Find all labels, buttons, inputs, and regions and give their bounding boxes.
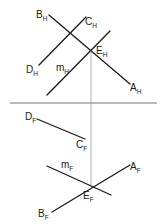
projection-diagram: BH CH DH EH mH AH DF CF mF AF EF BF bbox=[0, 0, 161, 224]
label-e-f: EF bbox=[83, 190, 94, 203]
label-c-h: CH bbox=[85, 16, 97, 29]
label-m-h: mH bbox=[56, 62, 69, 75]
line-m-frontal bbox=[47, 166, 111, 195]
label-b-f: BF bbox=[38, 208, 49, 221]
label-a-h: AH bbox=[130, 82, 142, 95]
label-b-h: BH bbox=[36, 9, 48, 22]
diagram-svg: BH CH DH EH mH AH DF CF mF AF EF BF bbox=[0, 0, 161, 224]
line-cd-frontal bbox=[37, 119, 85, 139]
label-m-f: mF bbox=[61, 159, 73, 172]
label-a-f: AF bbox=[130, 161, 141, 174]
label-d-f: DF bbox=[25, 111, 36, 124]
label-c-f: CF bbox=[76, 139, 87, 152]
label-d-h: DH bbox=[26, 64, 38, 77]
